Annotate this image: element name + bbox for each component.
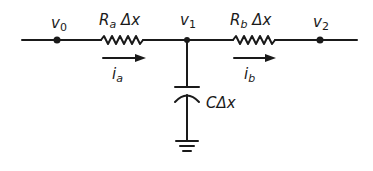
node-v1-dot (184, 37, 190, 43)
circuit-diagram: v0 Ra Δx v1 Rb Δx v2 ia ib CΔx (0, 0, 373, 171)
current-arrow-ib-head-icon (265, 54, 276, 62)
capacitor-label: CΔx (206, 96, 236, 111)
resistor-rb-icon (233, 36, 275, 44)
current-ia-label: ia (112, 67, 123, 82)
resistor-ra-label: Ra Δx (99, 13, 140, 28)
node-v2-label: v2 (313, 15, 329, 30)
resistor-ra-icon (101, 36, 143, 44)
resistor-rb-label: Rb Δx (230, 13, 271, 28)
node-v2-dot (317, 37, 324, 44)
node-v1-label: v1 (180, 13, 196, 28)
current-ib-label: ib (244, 67, 255, 82)
node-v0-dot (54, 37, 61, 44)
node-v0-label: v0 (51, 16, 67, 31)
current-arrow-ia-head-icon (135, 54, 146, 62)
